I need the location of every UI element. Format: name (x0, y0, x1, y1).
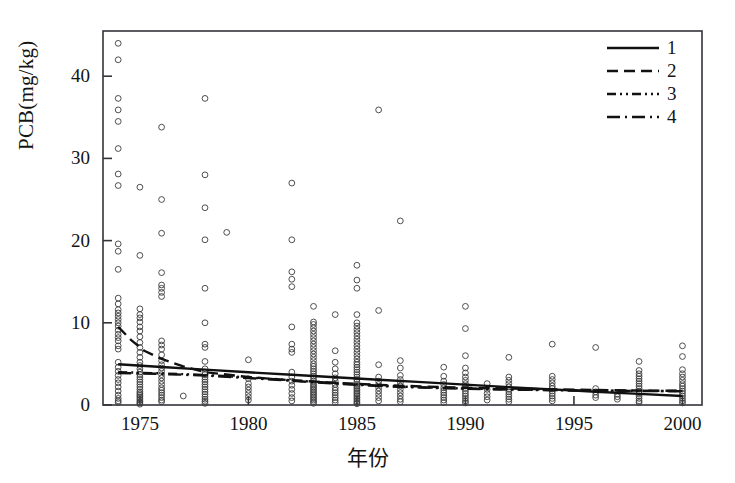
plot-canvas (0, 0, 735, 483)
y-tick-label: 30 (71, 147, 90, 169)
legend-item-4: 4 (667, 106, 677, 128)
x-tick-label: 1995 (555, 413, 593, 435)
scatter-points (115, 40, 685, 407)
x-tick-label: 1975 (121, 413, 159, 435)
x-axis-title: 年份 (347, 441, 389, 471)
chart-figure: PCB(mg/kg) 年份 01020304019751980198519901… (0, 0, 735, 483)
x-tick-label: 1980 (229, 413, 267, 435)
legend-item-1: 1 (667, 37, 677, 59)
x-tick-label: 2000 (663, 413, 701, 435)
axis-ticks (103, 76, 682, 405)
x-tick-label: 1990 (446, 413, 484, 435)
x-tick-label: 1985 (338, 413, 376, 435)
legend-item-3: 3 (667, 83, 677, 105)
y-axis-title: PCB(mg/kg) (14, 41, 39, 150)
legend-item-2: 2 (667, 60, 677, 82)
y-tick-label: 20 (71, 230, 90, 252)
y-tick-label: 40 (71, 65, 90, 87)
y-tick-label: 10 (71, 312, 90, 334)
legend-swatches (607, 48, 659, 117)
y-tick-label: 0 (81, 394, 91, 416)
plot-frame (103, 31, 702, 405)
